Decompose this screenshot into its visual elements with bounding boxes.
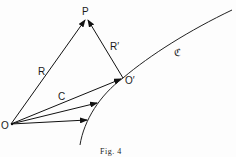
label-o-prime: O′ (125, 75, 135, 86)
label-p: P (82, 6, 89, 17)
diagram-canvas: P O O′ R R′ C ℭ Fig. 4 (0, 0, 236, 157)
label-o: O (1, 120, 9, 131)
label-c: C (58, 91, 65, 102)
label-curve: ℭ (174, 47, 181, 58)
figure-caption: Fig. 4 (100, 147, 122, 156)
figure-4: P O O′ R R′ C ℭ Fig. 4 (0, 0, 236, 157)
vector-3 (11, 120, 87, 124)
origin-point (11, 123, 13, 125)
label-r-prime: R′ (110, 41, 119, 52)
curve-c (80, 10, 232, 145)
label-r: R (38, 66, 45, 77)
